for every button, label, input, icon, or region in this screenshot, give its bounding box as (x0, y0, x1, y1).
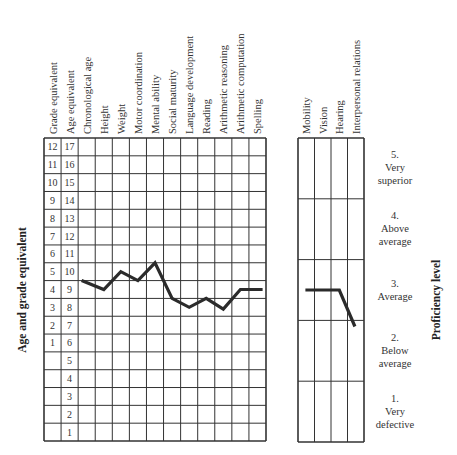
column-header: Social maturity (167, 69, 178, 134)
age-equivalent-cell: 8 (67, 302, 72, 313)
column-header: Vision (318, 106, 329, 134)
column-header: Mental ability (150, 74, 161, 134)
age-equivalent-cell: 1 (67, 427, 72, 438)
age-equivalent-cell: 5 (67, 355, 72, 366)
column-header: Language development (184, 36, 195, 134)
proficiency-level-label: Below (381, 345, 409, 356)
grade-equivalent-cell: 2 (50, 320, 55, 331)
proficiency-level-label: average (379, 358, 412, 369)
column-header: Reading (201, 98, 212, 134)
profile-chart: Grade equivalentAge equivalentChronologi… (0, 0, 457, 455)
column-header: Mobility (301, 96, 312, 134)
age-equivalent-cell: 2 (67, 409, 72, 420)
age-equivalent-cell: 13 (65, 213, 75, 224)
grade-equivalent-cell: 9 (50, 195, 55, 206)
age-grade-grid (44, 138, 266, 441)
age-equivalent-cell: 9 (67, 284, 72, 295)
proficiency-level-label: 4. (391, 210, 399, 221)
column-header: Age equivalent (65, 70, 76, 134)
age-equivalent-cell: 17 (65, 141, 75, 152)
age-equivalent-cell: 11 (65, 248, 75, 259)
proficiency-level-label: 1. (391, 393, 399, 404)
right-axis-label: Proficiency level (430, 260, 443, 341)
grade-equivalent-cell: 8 (50, 213, 55, 224)
column-header: Height (99, 105, 110, 134)
age-equivalent-cell: 4 (67, 373, 72, 384)
left-axis-label: Age and grade equivalent (16, 227, 29, 353)
age-equivalent-cell: 16 (65, 159, 75, 170)
column-header: Grade equivalent (48, 62, 59, 134)
proficiency-level-label: Very (385, 162, 406, 173)
column-header: Hearing (334, 99, 345, 134)
age-equivalent-cell: 3 (67, 391, 72, 402)
age-equivalent-cell: 14 (65, 195, 75, 206)
grade-equivalent-cell: 3 (50, 302, 55, 313)
proficiency-level-label: average (379, 236, 412, 247)
column-header: Arithmetic computation (235, 33, 246, 134)
proficiency-level-label: defective (376, 419, 415, 430)
column-header: Motor coordination (133, 51, 144, 134)
grade-equivalent-cell: 6 (50, 248, 55, 259)
column-header: Chronological age (82, 56, 93, 134)
proficiency-level-label: Average (378, 291, 413, 302)
column-header: Interpersonal relations (351, 40, 362, 134)
column-header: Weight (116, 104, 127, 134)
age-equivalent-cell: 7 (67, 320, 72, 331)
grade-equivalent-cell: 1 (50, 337, 55, 348)
left-column-headers: Grade equivalentAge equivalentChronologi… (48, 33, 264, 134)
grade-equivalent-cell: 7 (50, 231, 55, 242)
proficiency-level-labels: 5.Verysuperior4.Aboveaverage3.Average2.B… (376, 149, 415, 429)
proficiency-level-label: Above (381, 223, 409, 234)
age-equivalent-cell: 15 (65, 177, 75, 188)
right-column-headers: MobilityVisionHearingInterpersonal relat… (301, 40, 362, 134)
grade-equivalent-cell: 12 (48, 141, 58, 152)
column-header: Spelling (252, 98, 263, 134)
proficiency-level-label: superior (378, 175, 413, 186)
age-equivalent-cell: 6 (67, 337, 72, 348)
grade-equivalent-cell: 4 (50, 284, 55, 295)
proficiency-level-label: 5. (391, 149, 399, 160)
proficiency-level-label: 2. (391, 332, 399, 343)
age-profile-line (82, 263, 263, 309)
age-equivalent-cell: 10 (65, 266, 75, 277)
proficiency-level-label: 3. (391, 278, 399, 289)
grade-equivalent-cell: 5 (50, 266, 55, 277)
grade-equivalent-cell: 11 (48, 159, 58, 170)
age-equivalent-cell: 12 (65, 231, 75, 242)
proficiency-level-label: Very (385, 406, 406, 417)
column-header: Arithmetic reasoning (218, 44, 229, 134)
grade-equivalent-cell: 10 (48, 177, 58, 188)
